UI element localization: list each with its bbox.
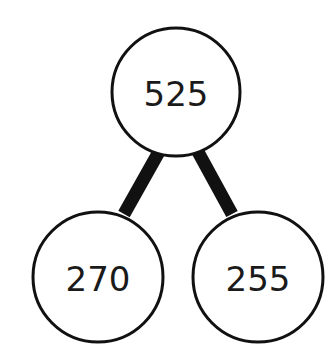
part-left-node-label: 270: [66, 259, 131, 299]
connector-right: [197, 150, 232, 214]
connector-left: [124, 150, 160, 214]
number-bond-diagram: 525 270 255: [0, 0, 336, 360]
whole-node-label: 525: [144, 74, 209, 114]
part-right-node-label: 255: [226, 259, 291, 299]
